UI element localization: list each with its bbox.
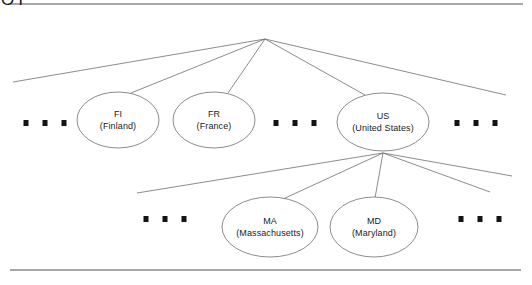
node-ellipse-ma[interactable] (222, 197, 318, 257)
ellipsis-dot (459, 216, 464, 222)
us-edge-right-upper (383, 153, 512, 176)
ellipsis-dot (293, 120, 298, 126)
node-ellipse-fi[interactable] (77, 92, 159, 148)
root-edge-to-fr (228, 39, 265, 93)
node-ellipse-fr[interactable] (173, 92, 255, 148)
ellipsis-dot (182, 216, 187, 222)
ellipsis-dot (497, 216, 502, 222)
root-edge-group (13, 39, 506, 95)
ellipsis-level1-right (455, 120, 498, 126)
ellipsis-dot (474, 120, 479, 126)
tree-diagram-figure: ROOT FI(Finland)FR(France)US(United Stat… (0, 0, 532, 285)
ellipsis-dot (62, 120, 67, 126)
root-edge-to-fi (131, 39, 265, 93)
ellipsis-dot (24, 120, 29, 126)
us-edge-to-md (375, 153, 383, 198)
ellipsis-level2-left (144, 216, 187, 222)
us-edge-to-ma (283, 153, 383, 199)
node-ellipse-us[interactable] (337, 93, 429, 151)
ellipsis-dot (163, 216, 168, 222)
node-ellipse-md[interactable] (330, 197, 418, 257)
ellipsis-dot (312, 120, 317, 126)
ellipsis-dot (274, 120, 279, 126)
us-edge-far-right (383, 153, 490, 192)
ellipsis-dot (478, 216, 483, 222)
ellipsis-dot (493, 120, 498, 126)
ellipsis-dot (43, 120, 48, 126)
root-edge-far-left (13, 39, 265, 82)
root-edge-to-us (265, 39, 365, 95)
us-edge-far-left (137, 153, 383, 193)
us-edge-group (137, 153, 512, 199)
ellipsis-dot (144, 216, 149, 222)
diagram-vector-layer (0, 0, 532, 285)
root-node-label: ROOT (0, 0, 27, 10)
ellipsis-level1-left (24, 120, 67, 126)
root-edge-far-right (265, 39, 506, 95)
ellipsis-dot (455, 120, 460, 126)
ellipsis-level2-right (459, 216, 502, 222)
ellipsis-level1-middle (274, 120, 317, 126)
